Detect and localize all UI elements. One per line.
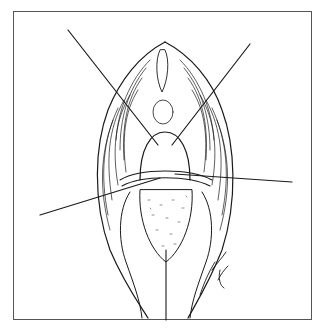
surgical-illustration (0, 0, 326, 330)
channel-left (120, 192, 142, 318)
suture-right (175, 174, 292, 182)
central-dome (140, 132, 190, 180)
hatching-left (102, 60, 150, 230)
channel-right (190, 192, 212, 318)
hatching-right (180, 60, 228, 230)
incision-band-bottom (122, 178, 210, 186)
outer-outline-right (165, 42, 233, 318)
top-structure (157, 50, 168, 92)
suture-upper-right (172, 44, 250, 145)
upper-round (153, 100, 173, 124)
stipple (148, 196, 187, 246)
